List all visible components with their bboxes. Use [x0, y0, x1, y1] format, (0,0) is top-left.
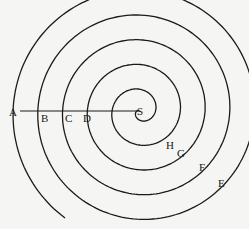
- spiral-figure: [0, 0, 249, 229]
- spiral-curve: [13, 0, 249, 219]
- label-b: B: [41, 113, 48, 124]
- spiral-diagram: A B C D S H G F E: [0, 0, 249, 229]
- label-e: E: [218, 178, 225, 189]
- label-g: G: [177, 148, 185, 159]
- label-h: H: [166, 140, 174, 151]
- label-a: A: [9, 107, 17, 118]
- label-c: C: [65, 113, 72, 124]
- label-d: D: [83, 113, 91, 124]
- label-f: F: [199, 162, 205, 173]
- label-s-center: S: [137, 106, 143, 117]
